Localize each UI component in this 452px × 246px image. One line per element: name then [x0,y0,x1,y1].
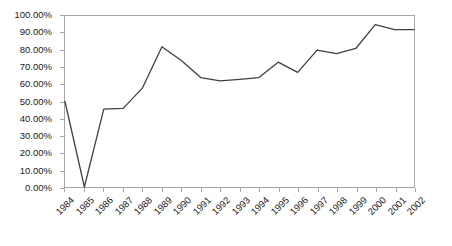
y-tick-label: 70.00% [20,62,52,72]
line-chart: 0.00%10.00%20.00%30.00%40.00%50.00%60.00… [0,0,452,246]
x-tick-mark [201,188,202,192]
y-tick-mark [60,171,64,172]
y-tick-mark [60,15,64,16]
x-tick-mark [162,188,163,192]
y-tick-label: 20.00% [20,149,52,159]
x-tick-mark [64,188,65,192]
series-polyline [65,25,414,187]
y-tick-mark [60,153,64,154]
x-tick-mark [103,188,104,192]
y-tick-label: 0.00% [25,183,52,193]
y-tick-label: 30.00% [20,131,52,141]
y-tick-mark [60,67,64,68]
y-tick-label: 40.00% [20,114,52,124]
y-axis: 0.00%10.00%20.00%30.00%40.00%50.00%60.00… [0,0,60,246]
y-tick-mark [60,50,64,51]
y-tick-label: 10.00% [20,166,52,176]
y-tick-label: 100.00% [14,10,52,20]
y-tick-mark [60,84,64,85]
y-tick-mark [60,119,64,120]
y-tick-label: 80.00% [20,45,52,55]
plot-area [64,15,415,188]
x-tick-mark [337,188,338,192]
y-tick-mark [60,102,64,103]
y-tick-label: 90.00% [20,28,52,38]
x-tick-mark [298,188,299,192]
x-tick-mark [142,188,143,192]
x-tick-mark [396,188,397,192]
y-tick-label: 50.00% [20,97,52,107]
x-tick-mark [376,188,377,192]
x-tick-mark [220,188,221,192]
y-tick-mark [60,32,64,33]
y-tick-label: 60.00% [20,79,52,89]
y-tick-mark [60,136,64,137]
x-tick-mark [357,188,358,192]
x-tick-mark [318,188,319,192]
x-tick-mark [240,188,241,192]
series-line [65,16,414,187]
x-tick-mark [279,188,280,192]
x-tick-mark [84,188,85,192]
x-tick-mark [123,188,124,192]
x-tick-mark [259,188,260,192]
x-tick-mark [181,188,182,192]
x-tick-mark [415,188,416,192]
